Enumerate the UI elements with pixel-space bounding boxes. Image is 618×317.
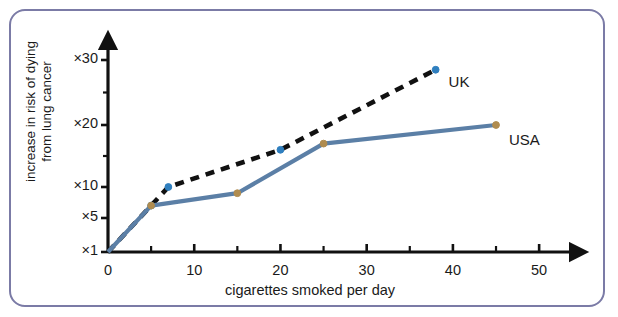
x-tick-label: 40 bbox=[433, 262, 473, 278]
series-group bbox=[108, 70, 496, 252]
series-line-uk bbox=[108, 70, 436, 252]
x-tick-label: 0 bbox=[88, 262, 128, 278]
axes-group bbox=[101, 47, 572, 252]
marker-group bbox=[148, 66, 500, 209]
x-tick-label: 50 bbox=[519, 262, 559, 278]
x-tick-label: 20 bbox=[260, 262, 300, 278]
series-label-uk: UK bbox=[449, 73, 470, 90]
data-point-uk-3 bbox=[277, 146, 284, 153]
y-tick-label: ×5 bbox=[42, 208, 98, 224]
x-tick-label: 30 bbox=[347, 262, 387, 278]
y-tick-label: ×20 bbox=[42, 115, 98, 131]
data-point-usa-3 bbox=[320, 140, 327, 147]
y-tick-label: ×30 bbox=[42, 50, 98, 66]
data-point-uk-2 bbox=[165, 184, 172, 191]
y-axis-label-line1: increase in risk of dying bbox=[23, 12, 39, 212]
figure-container: increase in risk of dying from lung canc… bbox=[0, 0, 618, 317]
y-tick-label: ×1 bbox=[42, 242, 98, 258]
y-tick-label: ×10 bbox=[42, 177, 98, 193]
x-tick-label: 10 bbox=[174, 262, 214, 278]
data-point-usa-2 bbox=[234, 190, 241, 197]
series-label-usa: USA bbox=[509, 131, 540, 148]
x-axis-label: cigarettes smoked per day bbox=[150, 282, 470, 298]
data-point-uk-4 bbox=[432, 66, 439, 73]
data-point-usa-1 bbox=[148, 202, 155, 209]
data-point-usa-4 bbox=[493, 122, 500, 129]
